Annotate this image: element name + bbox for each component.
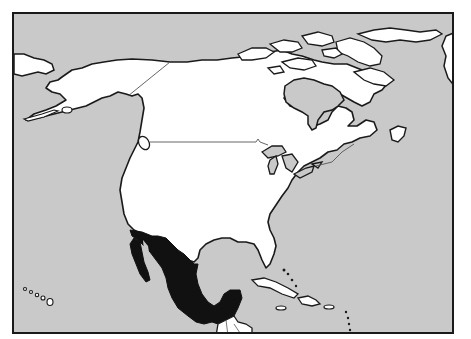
- jamaica: [276, 306, 286, 310]
- puerto-rico: [324, 305, 334, 309]
- map-frame: [12, 12, 454, 334]
- kodiak-island: [62, 107, 72, 113]
- north-america-map: [14, 14, 454, 334]
